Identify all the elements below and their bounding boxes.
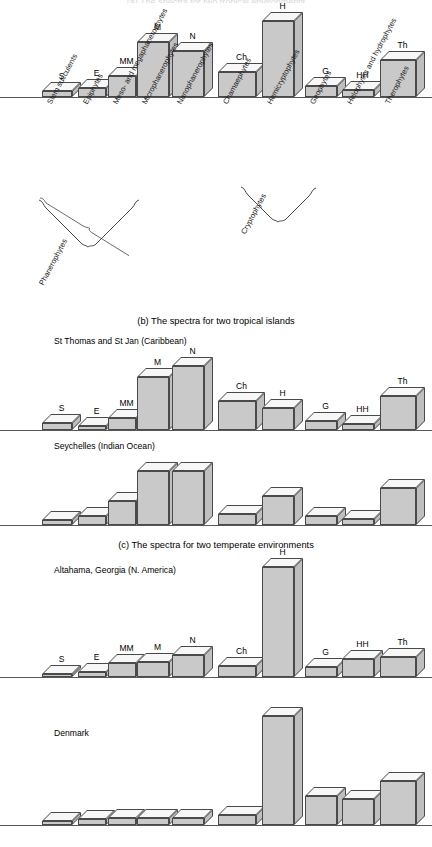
bar (380, 396, 416, 430)
bar-front-face (108, 663, 136, 677)
chart-panel-b1: SEMMMNChHGHHTh (0, 350, 432, 435)
bar-front-face (380, 488, 416, 525)
bar-code-label: HH (342, 640, 383, 649)
bar-code-label: Th (380, 377, 425, 386)
bar-side-face (294, 558, 303, 677)
bar (172, 471, 204, 525)
chart-panel-a: SEMMMNChHGHHTh Stem succulentsEpiphytesM… (0, 0, 432, 300)
bar-code-label: Ch (218, 647, 265, 656)
bar (172, 366, 204, 430)
caption-c: (c) The spectra for two temperate enviro… (0, 540, 432, 550)
caption-b: (b) The spectra for two tropical islands (0, 316, 432, 326)
bar-front-face (108, 501, 136, 525)
subtitle-seychelles: Seychelles (Indian Ocean) (54, 441, 155, 451)
bar-side-face (204, 357, 213, 430)
bar (108, 501, 136, 525)
bar (305, 796, 337, 825)
bar (342, 799, 374, 825)
bar (218, 514, 256, 525)
bar (218, 666, 256, 677)
bar-front-face (42, 423, 72, 430)
bar-code-label: S (42, 404, 81, 413)
bar-front-face (218, 401, 256, 430)
bar-front-face (108, 818, 136, 825)
bar (42, 423, 72, 430)
bar (78, 516, 106, 525)
bar (137, 471, 169, 525)
bar-front-face (137, 377, 169, 430)
bar-side-face (416, 772, 425, 825)
bar (305, 516, 337, 525)
bar-code-label: HH (342, 405, 383, 414)
bar (262, 567, 294, 677)
bar-front-face (380, 657, 416, 677)
bar (342, 659, 374, 677)
bar-code-label: H (262, 548, 303, 557)
bar (108, 418, 136, 430)
bar-front-face (305, 667, 337, 677)
bar (380, 781, 416, 825)
bars-c2 (0, 705, 432, 830)
bar (137, 662, 169, 677)
bar-code-label: N (172, 636, 213, 645)
bar-side-face (416, 387, 425, 430)
bar-front-face (380, 396, 416, 430)
baseline-c1 (0, 677, 432, 678)
bar-front-face (262, 567, 294, 677)
bar-code-label: H (262, 389, 303, 398)
bar-code-label: G (305, 648, 346, 657)
bar-side-face (294, 707, 303, 825)
chart-panel-c1: SEMMMNChHGHHTh (0, 560, 432, 682)
bars-c1: SEMMMNChHGHHTh (0, 560, 432, 682)
bar (108, 818, 136, 825)
bar-front-face (342, 659, 374, 677)
baseline-a (0, 97, 432, 98)
bar-front-face (137, 818, 169, 825)
figure-page: (a) The spectra for two tropical environ… (0, 0, 432, 847)
baseline-b1 (0, 430, 432, 431)
bar-code-label: E (78, 407, 115, 416)
bar-code-label: N (172, 347, 213, 356)
bar-front-face (172, 655, 204, 677)
bar (262, 716, 294, 825)
bar (218, 815, 256, 825)
bar-code-label: Th (380, 638, 425, 647)
bar-front-face (262, 716, 294, 825)
baseline-c2 (0, 825, 432, 826)
bar-front-face (218, 514, 256, 525)
bar (172, 818, 204, 825)
bar (262, 408, 294, 430)
bar-front-face (218, 815, 256, 825)
bar-front-face (78, 516, 106, 525)
bar-code-label: Ch (218, 382, 265, 391)
baseline-b2 (0, 525, 432, 526)
bar-side-face (416, 479, 425, 525)
chart-panel-c2 (0, 705, 432, 830)
bar-front-face (262, 408, 294, 430)
bar-front-face (172, 818, 204, 825)
chart-panel-b2 (0, 455, 432, 530)
bar-front-face (137, 662, 169, 677)
bar-front-face (342, 799, 374, 825)
bar-front-face (108, 418, 136, 430)
bar-front-face (380, 781, 416, 825)
bar-side-face (204, 462, 213, 525)
bar (380, 488, 416, 525)
bar-front-face (305, 421, 337, 430)
bar-front-face (262, 496, 294, 525)
bar (172, 655, 204, 677)
bar (108, 663, 136, 677)
bar-front-face (172, 471, 204, 525)
bar (137, 377, 169, 430)
bar-code-label: S (42, 655, 81, 664)
bar-code-label: N (172, 32, 213, 41)
bar-front-face (305, 516, 337, 525)
bar (262, 496, 294, 525)
bar-front-face (218, 666, 256, 677)
bar (305, 421, 337, 430)
bars-b1: SEMMMNChHGHHTh (0, 350, 432, 435)
bars-b2 (0, 455, 432, 530)
bar-front-face (172, 366, 204, 430)
bar-code-label: G (305, 402, 346, 411)
bar (218, 401, 256, 430)
